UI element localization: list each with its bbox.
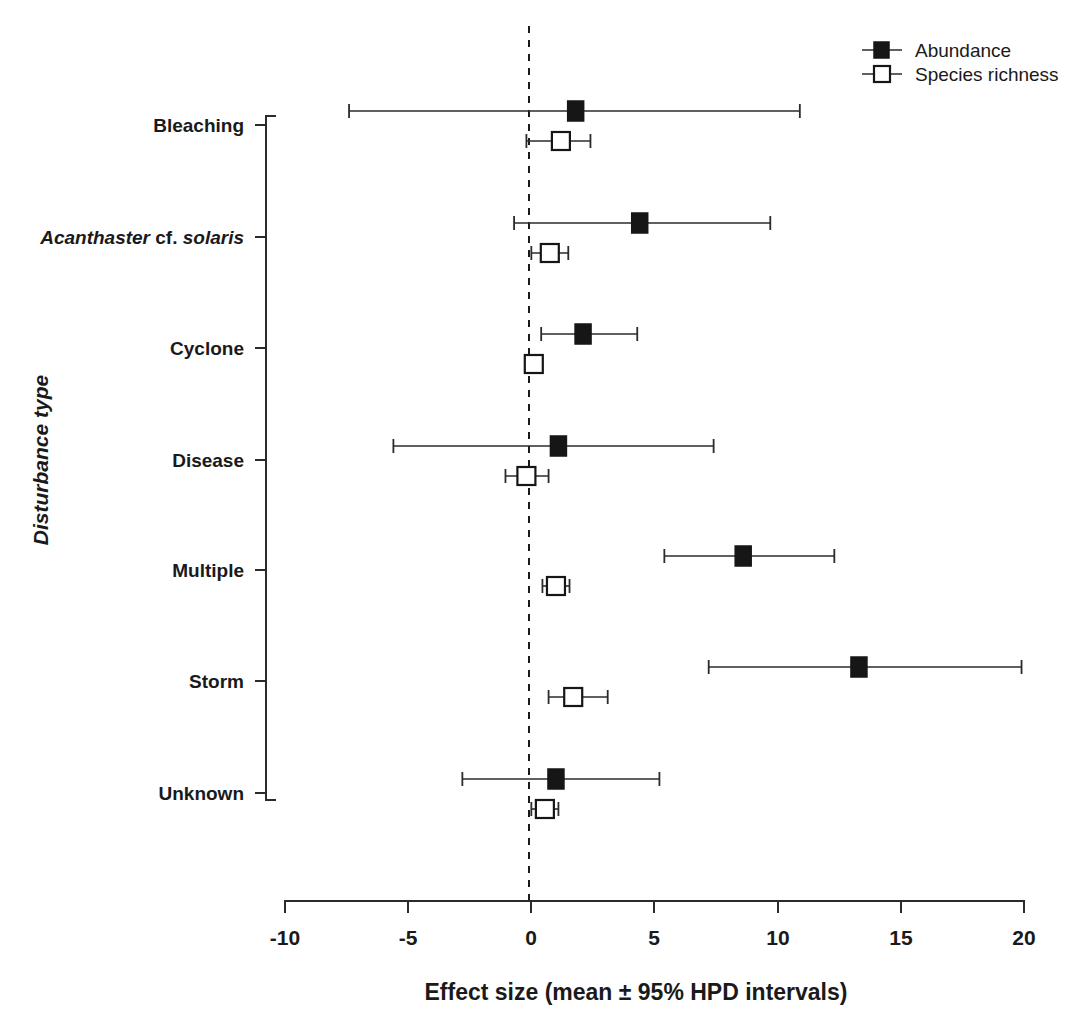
category-label-bleaching: Bleaching: [153, 115, 244, 136]
filled-square-icon: [874, 42, 889, 58]
forest-plot-figure: -10 -5 0 5 10 15 20 Bleaching Acanthaste…: [0, 0, 1068, 1031]
category-label-disease: Disease: [172, 450, 244, 471]
marker-filled-square: [735, 546, 751, 566]
category-label-acanthaster: Acanthaster cf. solaris: [39, 227, 244, 248]
x-tick-label: 20: [1012, 926, 1035, 949]
x-tick-label: -5: [399, 926, 418, 949]
marker-open-square: [525, 355, 543, 373]
marker-open-square: [564, 688, 582, 706]
datapoint[interactable]: [525, 355, 543, 373]
y-axis-title: Disturbance type: [29, 374, 52, 545]
marker-filled-square: [575, 324, 591, 344]
forest-plot-canvas: -10 -5 0 5 10 15 20 Bleaching Acanthaste…: [0, 0, 1068, 1031]
plot-background: [0, 0, 1068, 1031]
marker-open-square: [547, 577, 565, 595]
x-axis-title: Effect size (mean ± 95% HPD intervals): [425, 979, 848, 1005]
x-tick-label: 5: [648, 926, 660, 949]
category-label-cyclone: Cyclone: [170, 338, 244, 359]
x-tick-label: 10: [766, 926, 789, 949]
marker-filled-square: [632, 213, 648, 233]
marker-open-square: [536, 800, 554, 818]
open-square-icon: [874, 66, 890, 82]
marker-filled-square: [550, 436, 566, 456]
marker-open-square: [552, 132, 570, 150]
marker-open-square: [541, 244, 559, 262]
legend-label-species-richness: Species richness: [915, 64, 1059, 85]
datapoint[interactable]: [531, 800, 558, 818]
x-tick-label: 15: [889, 926, 913, 949]
marker-filled-square: [548, 769, 564, 789]
category-label-storm: Storm: [189, 671, 244, 692]
legend-label-abundance: Abundance: [915, 40, 1011, 61]
marker-open-square: [517, 467, 535, 485]
x-tick-label: -10: [270, 926, 300, 949]
x-tick-label: 0: [525, 926, 537, 949]
legend-entry-abundance[interactable]: Abundance: [862, 40, 1011, 61]
marker-filled-square: [851, 657, 867, 677]
datapoint[interactable]: [542, 577, 569, 595]
category-label-unknown: Unknown: [159, 783, 245, 804]
category-label-multiple: Multiple: [172, 560, 244, 581]
marker-filled-square: [568, 101, 584, 121]
